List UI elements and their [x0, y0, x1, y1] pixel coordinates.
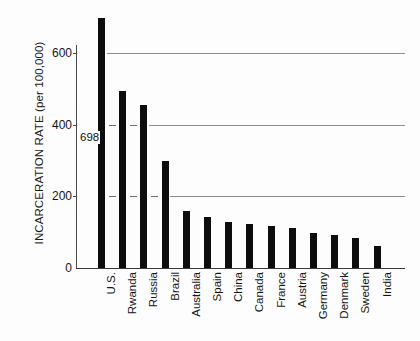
bar-rect	[183, 211, 190, 268]
bar-russia	[140, 0, 147, 268]
data-label-annotation: 698	[79, 131, 100, 144]
bar-rect	[162, 161, 169, 269]
x-label-brazil: Brazil	[169, 272, 181, 341]
bar-brazil	[162, 0, 169, 268]
bar-chart: INCARCERATION RATE (per 100,000) 6004002…	[0, 0, 420, 341]
bar-australia	[183, 0, 190, 268]
x-label-denmark: Denmark	[338, 272, 350, 341]
bar-rect	[246, 224, 253, 268]
x-label-rwanda: Rwanda	[126, 272, 138, 341]
bar-india	[374, 0, 381, 268]
bar-rect	[140, 105, 147, 268]
x-label-sweden: Sweden	[359, 272, 371, 341]
bar-denmark	[331, 0, 338, 268]
x-label-spain: Spain	[211, 272, 223, 341]
x-label-canada: Canada	[253, 272, 265, 341]
bar-rect	[204, 217, 211, 268]
x-label-russia: Russia	[147, 272, 159, 341]
bars-layer	[0, 0, 420, 268]
bar-rect	[225, 222, 232, 268]
bar-canada	[246, 0, 253, 268]
x-label-austria: Austria	[296, 272, 308, 341]
bar-rect	[352, 238, 359, 268]
bar-rwanda	[119, 0, 126, 268]
bar-austria	[289, 0, 296, 268]
bar-rect	[289, 228, 296, 268]
x-label-india: India	[381, 272, 393, 341]
x-label-u-s: U.S.	[105, 272, 117, 341]
bar-rect	[268, 226, 275, 268]
bar-rect	[374, 246, 381, 268]
x-label-france: France	[275, 272, 287, 341]
bar-china	[225, 0, 232, 268]
bar-rect	[119, 91, 126, 268]
bar-germany	[310, 0, 317, 268]
x-label-germany: Germany	[317, 272, 329, 341]
x-label-china: China	[232, 272, 244, 341]
bar-rect	[310, 233, 317, 268]
x-axis-baseline	[76, 268, 405, 269]
bar-france	[268, 0, 275, 268]
x-label-australia: Australia	[190, 272, 202, 341]
bar-rect	[331, 235, 338, 268]
bar-spain	[204, 0, 211, 268]
bar-sweden	[352, 0, 359, 268]
